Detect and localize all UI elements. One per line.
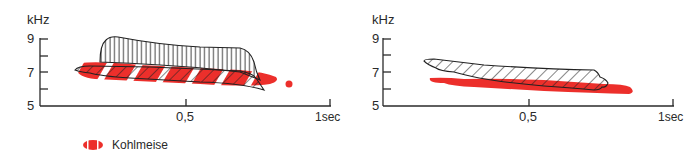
x-tick-label-05: 0,5 <box>519 109 537 124</box>
y-tick-label-7: 7 <box>372 65 379 80</box>
kohlmeise-swatch-icon <box>82 139 104 151</box>
legend-label: Kohlmeise <box>112 138 168 152</box>
y-tick-label-5: 5 <box>372 98 379 113</box>
x-axis <box>383 99 674 106</box>
y-tick-label-9: 9 <box>27 31 34 46</box>
y-axis <box>383 38 391 106</box>
legend: Kohlmeise <box>82 138 168 152</box>
x-tick-label-05: 0,5 <box>176 109 194 124</box>
x-tick-label-1sec: 1sec <box>658 110 683 124</box>
spectrogram-chart-right: kHz 9 7 5 0,5 1sec <box>344 0 688 130</box>
y-tick-label-9: 9 <box>372 31 379 46</box>
spectrogram-chart-left: kHz 9 7 5 0,5 1sec <box>0 0 344 130</box>
y-axis <box>40 38 48 106</box>
x-axis <box>40 99 331 106</box>
y-tick-label-5: 5 <box>27 98 34 113</box>
y-axis-unit-label: kHz <box>372 12 394 27</box>
x-tick-label-1sec: 1sec <box>315 110 340 124</box>
y-tick-label-7: 7 <box>27 65 34 80</box>
y-axis-unit-label: kHz <box>27 12 49 27</box>
